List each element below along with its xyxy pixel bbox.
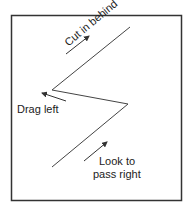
drag-left-arrow-icon bbox=[42, 93, 66, 101]
movement-path bbox=[52, 27, 130, 167]
look-to-label: Look to bbox=[99, 155, 135, 168]
drag-left-label: Drag left bbox=[17, 103, 59, 116]
pass-right-label: pass right bbox=[93, 168, 141, 181]
